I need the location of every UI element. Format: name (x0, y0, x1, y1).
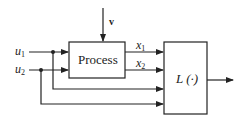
u2-label: u2 (15, 63, 25, 77)
x2-label: x2 (136, 57, 145, 71)
process-label: Process (78, 53, 118, 66)
u2-bypass-arrow (41, 70, 163, 104)
loss-label: L (·) (176, 72, 198, 85)
diagram-lines (0, 0, 250, 124)
u1-junction-dot (51, 50, 55, 54)
u2-junction-dot (39, 68, 43, 72)
x1-label: x1 (136, 39, 145, 53)
v-label: v (109, 17, 114, 27)
u1-label: u1 (15, 45, 25, 59)
block-diagram: Process L (·) v u1 u2 x1 x2 (0, 0, 250, 124)
